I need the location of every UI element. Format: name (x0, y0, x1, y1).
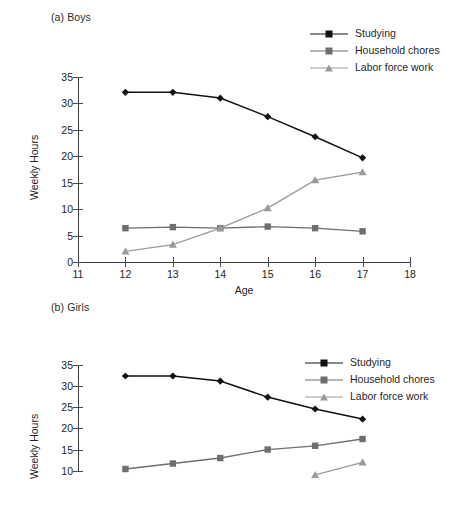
y-tick-label: 20 (61, 150, 73, 162)
x-tick-label: 17 (357, 268, 369, 280)
x-tick-label: 12 (120, 268, 132, 280)
legend-item-label: Labor force work (350, 391, 428, 402)
legend-item-label: Household chores (355, 45, 440, 56)
y-tick-label: 20 (61, 422, 73, 434)
data-point-marker (359, 228, 365, 234)
x-tick-label: 16 (309, 268, 321, 280)
square-marker (310, 45, 348, 57)
series-line-labor-force-work (315, 462, 363, 475)
data-point-marker (122, 225, 128, 231)
data-point-marker (359, 168, 367, 175)
legend-boys: StudyingHousehold choresLabor force work (310, 25, 440, 76)
data-point-marker (122, 466, 128, 472)
data-point-marker (312, 443, 318, 449)
x-tick-label: 13 (167, 268, 179, 280)
data-point-marker (170, 460, 176, 466)
data-point-marker (265, 446, 271, 452)
data-point-marker (264, 113, 271, 120)
x-tick-label: 15 (262, 268, 274, 280)
data-point-marker (264, 394, 271, 401)
diamond-marker (305, 357, 343, 369)
y-tick-label: 35 (61, 359, 73, 371)
x-tick-label: 18 (404, 268, 416, 280)
triangle-marker (305, 391, 343, 403)
y-tick-label: 10 (61, 465, 73, 477)
data-point-marker (217, 377, 224, 384)
y-tick-label: 5 (67, 230, 73, 242)
x-axis-line-boys (78, 262, 410, 263)
legend-item-label: Studying (350, 357, 391, 368)
y-axis-title-girls: Weekly Hours (28, 414, 40, 479)
data-point-marker (312, 405, 319, 412)
legend-item[interactable]: Labor force work (305, 388, 435, 405)
data-point-marker (359, 154, 366, 161)
data-point-marker (359, 416, 366, 423)
data-point-marker (359, 458, 367, 465)
panel-title-boys: (a) Boys (51, 11, 91, 23)
series-line-labor-force-work (125, 172, 362, 251)
legend-item-label: Household chores (350, 374, 435, 385)
data-point-marker (169, 372, 176, 379)
data-point-marker (264, 204, 272, 211)
data-point-marker (312, 133, 319, 140)
data-point-marker (122, 372, 129, 379)
plot-area-boys: Age 051015202530351112131415161718 (78, 77, 410, 262)
x-tick-label: 11 (73, 268, 84, 280)
series-line-studying (125, 92, 362, 158)
square-marker (305, 374, 343, 386)
x-tick (410, 257, 411, 267)
series-line-household-chores (125, 439, 362, 469)
y-tick-label: 25 (61, 124, 73, 136)
series-line-household-chores (125, 227, 362, 232)
y-tick-label: 10 (61, 203, 73, 215)
y-tick-label: 35 (61, 71, 73, 83)
panel-boys: (a) Boys Weekly Hours Age 05101520253035… (0, 0, 459, 294)
y-tick-label: 30 (61, 380, 73, 392)
y-axis-title-boys: Weekly Hours (28, 135, 40, 200)
legend-item[interactable]: Household chores (305, 371, 435, 388)
figure-container: (a) Boys Weekly Hours Age 05101520253035… (0, 0, 459, 519)
series-layer (78, 77, 410, 262)
legend-item[interactable]: Studying (305, 354, 435, 371)
y-tick-label: 30 (61, 97, 73, 109)
data-point-marker (122, 89, 129, 96)
legend-item-label: Labor force work (355, 62, 433, 73)
data-point-marker (359, 436, 365, 442)
data-point-marker (170, 224, 176, 230)
y-tick-label: 15 (61, 444, 73, 456)
data-point-marker (217, 455, 223, 461)
y-tick-label: 0 (67, 256, 73, 268)
data-point-marker (169, 89, 176, 96)
x-tick-label: 14 (214, 268, 226, 280)
data-point-marker (312, 225, 318, 231)
panel-girls: (b) Girls Weekly Hours 101520253035 Stud… (0, 294, 459, 519)
y-tick-label: 15 (61, 177, 73, 189)
panel-title-girls: (b) Girls (51, 301, 89, 313)
y-tick-label: 25 (61, 401, 73, 413)
legend-item[interactable]: Household chores (310, 42, 440, 59)
legend-girls: StudyingHousehold choresLabor force work (305, 354, 435, 405)
triangle-marker (310, 62, 348, 74)
legend-item[interactable]: Studying (310, 25, 440, 42)
legend-item-label: Studying (355, 28, 396, 39)
data-point-marker (217, 95, 224, 102)
data-point-marker (265, 223, 271, 229)
diamond-marker (310, 28, 348, 40)
legend-item[interactable]: Labor force work (310, 59, 440, 76)
